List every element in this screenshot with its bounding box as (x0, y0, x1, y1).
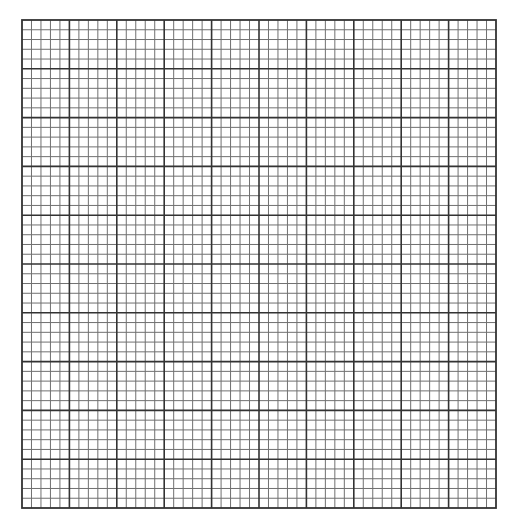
graph-paper-grid (21, 19, 497, 509)
